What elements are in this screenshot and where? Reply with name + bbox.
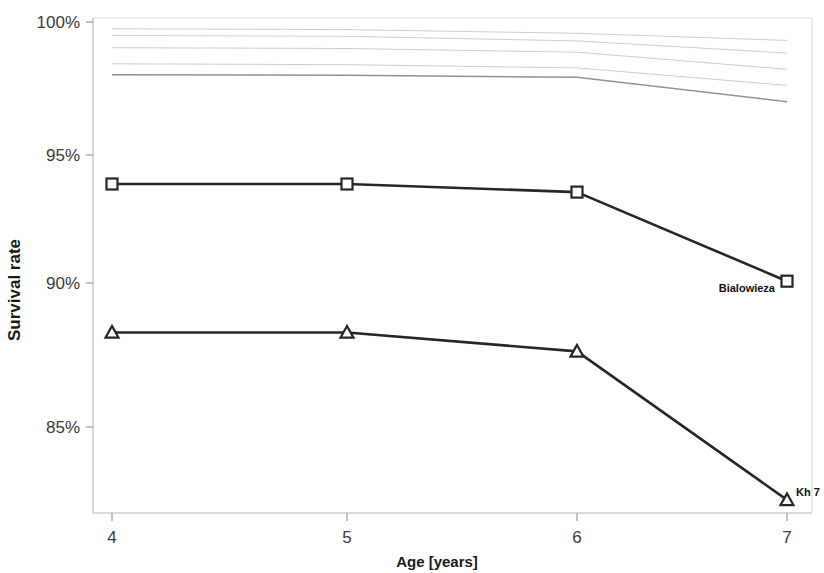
y-tick-label-95: 95% xyxy=(46,146,80,165)
x-tick-label-5: 5 xyxy=(342,528,351,547)
marker-square xyxy=(572,187,583,198)
survival-rate-chart: 100% 95% 90% 85% 4 5 6 7 Survival rate A… xyxy=(0,0,824,573)
marker-square xyxy=(107,179,118,190)
y-tick-label-100: 100% xyxy=(37,13,80,32)
marker-square xyxy=(342,179,353,190)
y-tick-label-85: 85% xyxy=(46,418,80,437)
y-axis-title: Survival rate xyxy=(5,239,24,341)
chart-background xyxy=(0,0,824,573)
x-axis-title: Age [years] xyxy=(396,553,478,570)
series-endpoint-label-kh-7: Kh 7 xyxy=(796,486,820,498)
marker-square xyxy=(782,276,793,287)
y-tick-label-90: 90% xyxy=(46,274,80,293)
x-tick-label-4: 4 xyxy=(107,528,116,547)
x-tick-label-6: 6 xyxy=(572,528,581,547)
x-tick-label-7: 7 xyxy=(782,528,791,547)
chart-svg: 100% 95% 90% 85% 4 5 6 7 Survival rate A… xyxy=(0,0,824,573)
series-endpoint-label-bialowieza: Bialowieza xyxy=(719,282,776,294)
